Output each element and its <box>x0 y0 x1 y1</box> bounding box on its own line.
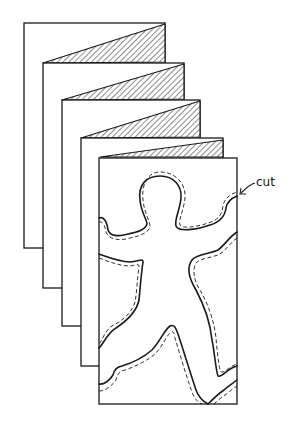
cut-annotation: cut <box>240 175 275 194</box>
accordion-fold-diagram: cut <box>0 0 297 428</box>
cut-label: cut <box>256 175 275 189</box>
cut-arrow-icon <box>241 183 255 193</box>
front-panel <box>99 158 237 404</box>
